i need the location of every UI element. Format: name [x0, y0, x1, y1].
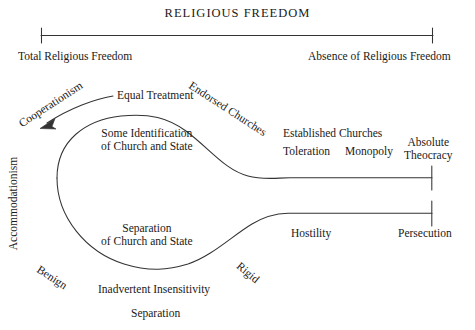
absolute-theocracy-line-1: Absolute — [404, 136, 453, 149]
label-separation: Separation — [131, 307, 180, 320]
separation-line-2: of Church and State — [101, 235, 193, 248]
absolute-theocracy-line-2: Theocracy — [404, 149, 453, 162]
label-absolute-theocracy: Absolute Theocracy — [404, 136, 453, 162]
leader-arrowhead — [40, 119, 56, 130]
label-some-identification: Some Identification of Church and State — [101, 127, 193, 153]
page-title: RELIGIOUS FREEDOM — [0, 6, 475, 20]
label-hostility: Hostility — [291, 227, 331, 240]
some-identification-line-2: of Church and State — [101, 140, 193, 153]
some-identification-line-1: Some Identification — [101, 127, 193, 140]
label-accommodationism: Accommodationism — [7, 157, 20, 250]
scale-label-left: Total Religious Freedom — [18, 50, 132, 63]
label-equal-treatment: Equal Treatment — [117, 89, 193, 102]
label-persecution: Persecution — [398, 227, 452, 240]
label-separation-of-church-and-state: Separation of Church and State — [101, 222, 193, 248]
label-monopoly: Monopoly — [345, 145, 393, 158]
label-established-churches: Established Churches — [283, 127, 382, 140]
label-inadvertent-insensitivity: Inadvertent Insensitivity — [98, 283, 210, 296]
scale-label-right: Absence of Religious Freedom — [308, 50, 451, 63]
separation-line-1: Separation — [101, 222, 193, 235]
label-toleration: Toleration — [283, 145, 330, 158]
